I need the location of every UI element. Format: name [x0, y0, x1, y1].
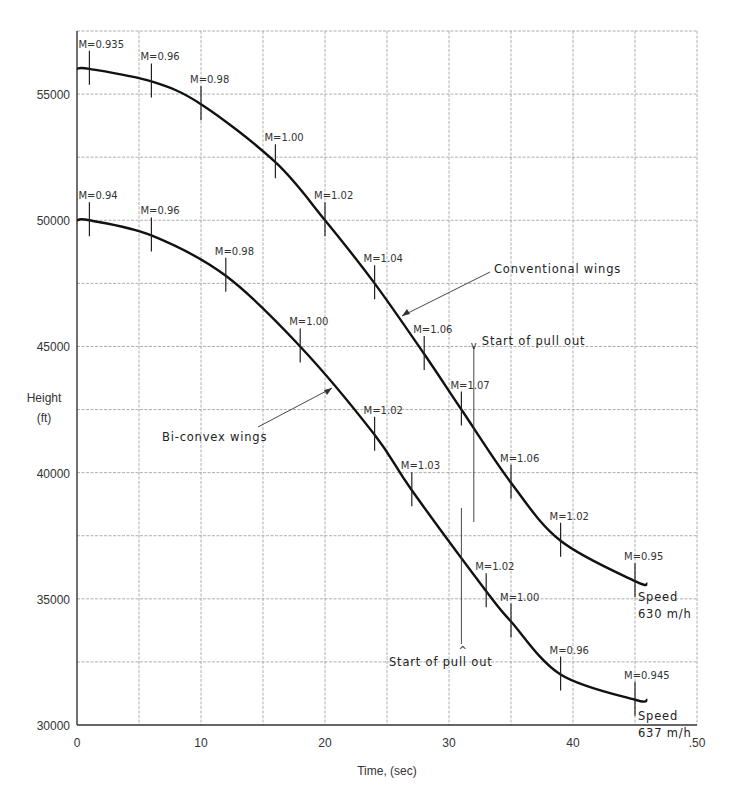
pull-out-label: Start of pull out	[482, 334, 586, 348]
y-tick-label: 40000	[37, 467, 71, 481]
y-axis-title: (ft)	[37, 411, 52, 425]
mach-label: M=1.06	[500, 453, 539, 464]
mach-label: M=0.945	[624, 670, 670, 681]
y-axis-title: Height	[27, 391, 62, 405]
mach-label: M=0.96	[140, 51, 179, 62]
mach-label: M=0.95	[624, 551, 663, 562]
curve-line	[77, 219, 647, 701]
mach-label: M=1.02	[364, 405, 403, 416]
mach-label: M=1.03	[401, 460, 440, 471]
pointer-arrow	[258, 388, 332, 427]
mach-label: M=0.98	[190, 74, 229, 85]
x-tick-label: 30	[442, 736, 456, 750]
pointer-arrow	[402, 272, 490, 316]
x-tick-label: 0	[74, 736, 81, 750]
height-vs-time-chart: 010203040.503000035000400004500050000550…	[0, 0, 730, 797]
mach-label: M=1.02	[550, 511, 589, 522]
conventional-wings-label: Conventional wings	[494, 262, 621, 276]
mach-label: M=0.94	[78, 190, 117, 201]
y-tick-label: 30000	[37, 719, 71, 733]
x-axis-title: Time, (sec)	[357, 764, 417, 778]
y-tick-label: 45000	[37, 340, 71, 354]
mach-label: M=0.98	[215, 246, 254, 257]
mach-label: M=0.935	[78, 39, 124, 50]
mach-label: M=1.02	[475, 561, 514, 572]
grid-lines	[77, 31, 697, 725]
mach-label: M=1.04	[364, 253, 403, 264]
mach-label: M=1.06	[413, 324, 452, 335]
speed-note: 630 m/h	[638, 607, 692, 621]
mach-label: M=1.02	[314, 190, 353, 201]
mach-label: M=0.96	[550, 645, 589, 656]
x-tick-label: 10	[194, 736, 208, 750]
caret-down-icon: v	[471, 340, 477, 351]
mach-label: M=1.00	[289, 316, 328, 327]
mach-label: M=1.07	[450, 380, 489, 391]
y-tick-label: 35000	[37, 593, 71, 607]
bi-convex-wings-label: Bi-convex wings	[162, 430, 267, 444]
curve-line	[77, 68, 647, 585]
speed-note: Speed	[638, 590, 678, 604]
pull-out-label: Start of pull out	[389, 655, 493, 669]
arrowhead-icon	[402, 309, 410, 316]
mach-label: M=0.96	[140, 205, 179, 216]
mach-label: M=1.00	[264, 132, 303, 143]
annotations: Conventional wingsBi-convex wingsvStart …	[162, 262, 621, 669]
x-tick-label: 20	[318, 736, 332, 750]
series-conventional-wings: M=0.935M=0.96M=0.98M=1.00M=1.02M=1.04M=1…	[77, 39, 692, 621]
speed-note: 637 m/h	[638, 726, 692, 740]
mach-label: M=1.00	[500, 592, 539, 603]
data-series: M=0.935M=0.96M=0.98M=1.00M=1.02M=1.04M=1…	[77, 39, 692, 740]
y-tick-label: 50000	[37, 214, 71, 228]
y-tick-label: 55000	[37, 88, 71, 102]
x-tick-label: 40	[566, 736, 580, 750]
speed-note: Speed	[638, 709, 678, 723]
